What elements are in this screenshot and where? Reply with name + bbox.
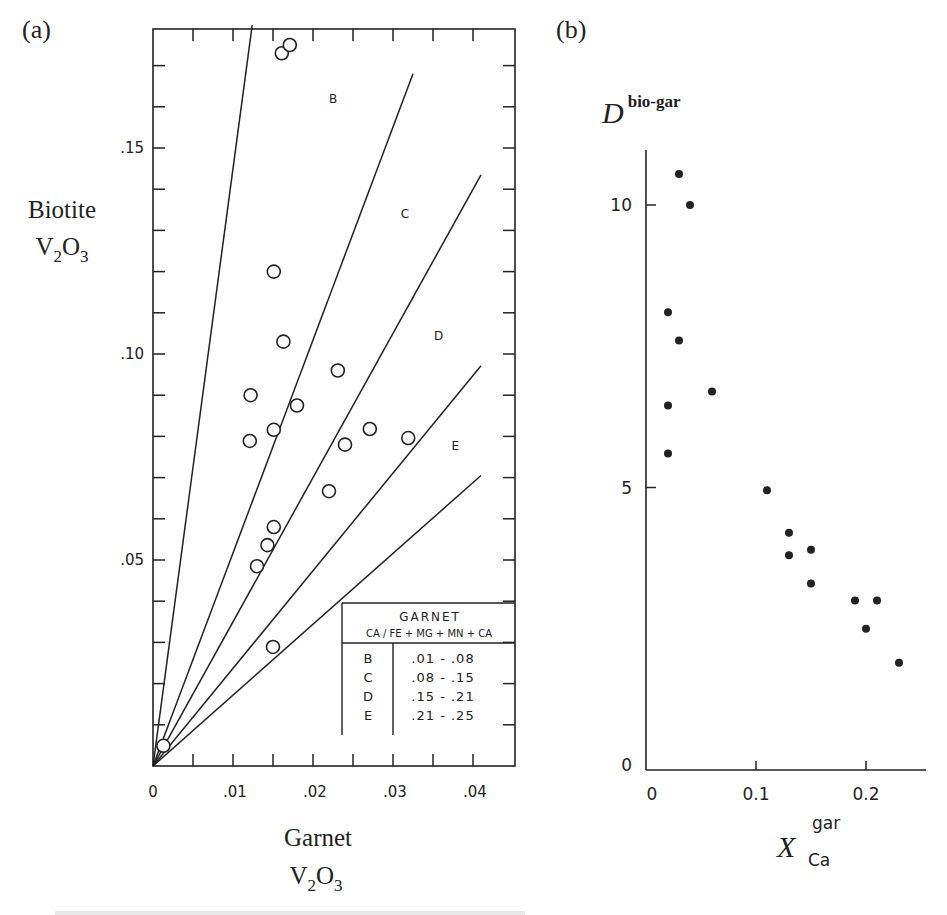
data-point bbox=[664, 450, 672, 458]
data-point bbox=[675, 337, 683, 345]
data-point bbox=[244, 389, 257, 402]
legend-subtitle: CA / FE + MG + MN + CA bbox=[366, 628, 492, 639]
legend-range: .08 - .15 bbox=[411, 670, 474, 685]
data-point bbox=[851, 597, 859, 605]
panel-a: (a) 0.01.02.03.04.05.10.15 BCDE GARNET C… bbox=[22, 15, 515, 895]
panel-b-ticks bbox=[646, 205, 866, 770]
legend-title: GARNET bbox=[399, 610, 461, 624]
data-point bbox=[807, 580, 815, 588]
x-tick-label: 0.1 bbox=[742, 784, 769, 804]
panel-b-ylabel: Dbio-gar bbox=[601, 92, 681, 129]
data-point bbox=[267, 423, 280, 436]
data-point bbox=[267, 265, 280, 278]
region-label-c: C bbox=[401, 207, 409, 221]
data-point bbox=[243, 434, 256, 447]
y-tick-label: .15 bbox=[120, 139, 144, 157]
data-point bbox=[785, 551, 793, 559]
data-point bbox=[251, 560, 264, 573]
figure: (a) 0.01.02.03.04.05.10.15 BCDE GARNET C… bbox=[0, 0, 947, 915]
x-tick-label: .02 bbox=[303, 783, 327, 801]
y-tick-label: .05 bbox=[120, 551, 144, 569]
data-point bbox=[402, 432, 415, 445]
panel-b-xlabel-sup: gar bbox=[812, 813, 840, 833]
data-point bbox=[862, 625, 870, 633]
panel-a-legend: GARNET CA / FE + MG + MN + CA B.01 - .08… bbox=[342, 603, 515, 735]
data-point bbox=[261, 539, 274, 552]
data-point bbox=[686, 201, 694, 209]
legend-key: C bbox=[363, 670, 372, 685]
data-point bbox=[283, 39, 296, 52]
panel-a-label: (a) bbox=[22, 15, 51, 44]
legend-range: .01 - .08 bbox=[411, 651, 474, 666]
data-point bbox=[895, 659, 903, 667]
data-point bbox=[664, 308, 672, 316]
panel-a-points bbox=[157, 39, 415, 753]
data-point bbox=[291, 399, 304, 412]
data-point bbox=[323, 485, 336, 498]
panel-b-label: (b) bbox=[556, 15, 586, 44]
x-tick-label: .01 bbox=[223, 783, 247, 801]
data-point bbox=[267, 640, 280, 653]
legend-key: B bbox=[364, 651, 373, 666]
data-point bbox=[675, 170, 683, 178]
data-point bbox=[664, 402, 672, 410]
panel-b-points bbox=[664, 170, 903, 667]
x-tick-label: 0 bbox=[647, 784, 658, 804]
legend-key: E bbox=[364, 708, 372, 723]
panel-a-ylabel-line1: Biotite bbox=[28, 196, 96, 223]
legend-range: .21 - .25 bbox=[411, 708, 474, 723]
panel-a-ylabel-line2: V2O3 bbox=[35, 233, 88, 266]
legend-key: D bbox=[363, 689, 373, 704]
y-tick-label: 0 bbox=[621, 755, 632, 775]
panel-a-region-labels: BCDE bbox=[329, 92, 459, 453]
panel-b-tick-labels: 00.10.20510 bbox=[610, 195, 879, 804]
y-tick-label: 10 bbox=[610, 195, 632, 215]
region-label-d: D bbox=[434, 329, 443, 343]
boundary-line-4 bbox=[153, 366, 481, 766]
data-point bbox=[277, 335, 290, 348]
data-point bbox=[807, 546, 815, 554]
y-tick-label: 5 bbox=[621, 478, 632, 498]
data-point bbox=[267, 521, 280, 534]
panel-b: (b) Dbio-gar 00.10.20510 X gar Ca bbox=[556, 15, 926, 870]
data-point bbox=[873, 597, 881, 605]
x-tick-label: 0.2 bbox=[852, 784, 879, 804]
data-point bbox=[331, 364, 344, 377]
data-point bbox=[763, 486, 771, 494]
panel-a-xlabel-line1: Garnet bbox=[284, 824, 352, 851]
data-point bbox=[157, 739, 170, 752]
x-tick-label: .04 bbox=[463, 783, 487, 801]
region-label-b: B bbox=[329, 92, 337, 106]
boundary-line-1 bbox=[153, 25, 252, 766]
y-tick-label: .10 bbox=[120, 345, 144, 363]
data-point bbox=[339, 438, 352, 451]
x-tick-label: .03 bbox=[383, 783, 407, 801]
boundary-line-2 bbox=[153, 74, 413, 766]
panel-b-xlabel-sub: Ca bbox=[808, 850, 830, 870]
x-tick-label: 0 bbox=[148, 783, 158, 801]
region-label-e: E bbox=[452, 439, 460, 453]
data-point bbox=[708, 387, 716, 395]
data-point bbox=[363, 422, 376, 435]
legend-range: .15 - .21 bbox=[411, 689, 474, 704]
panel-a-xlabel-line2: V2O3 bbox=[289, 862, 342, 895]
panel-b-xlabel: X bbox=[776, 830, 797, 863]
caption-fragment bbox=[55, 911, 525, 915]
data-point bbox=[785, 529, 793, 537]
